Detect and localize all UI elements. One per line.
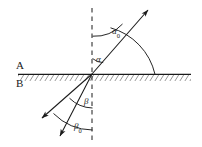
- angle-subscript-alpha-zero: 0: [117, 32, 120, 39]
- angle-subscript-beta-zero: 0: [78, 127, 81, 134]
- physics-diagram-figure: A B α0 α β β0: [0, 0, 202, 147]
- angle-symbol-alpha: α: [96, 54, 101, 64]
- angle-label-alpha: α: [96, 55, 101, 66]
- angle-symbol-beta: β: [84, 96, 88, 106]
- interface-hatching: [18, 75, 191, 81]
- medium-label-a: A: [16, 60, 24, 71]
- arc-beta0: [54, 114, 93, 131]
- angle-label-beta-zero: β0: [74, 122, 82, 133]
- angle-label-alpha-zero: α0: [112, 27, 120, 38]
- angle-label-beta: β: [84, 97, 88, 108]
- diagram-canvas: [0, 0, 202, 147]
- arc-beta: [70, 98, 93, 108]
- medium-label-b: B: [16, 78, 23, 89]
